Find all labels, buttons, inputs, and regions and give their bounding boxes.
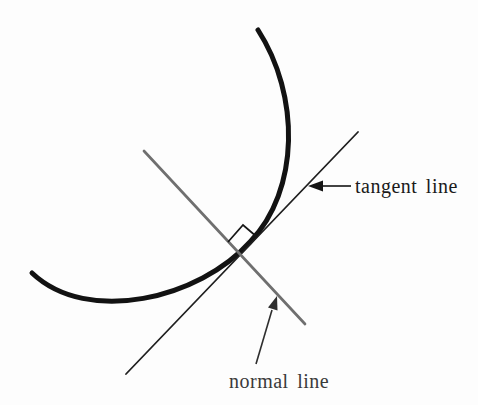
tangent-arrow	[308, 181, 351, 192]
normal-line	[144, 151, 305, 324]
normal-arrow-shaft	[256, 310, 272, 364]
curve	[32, 30, 289, 301]
diagram-figure: tangent line normal line	[0, 0, 478, 405]
normal-arrow	[256, 296, 278, 364]
tangent-line-label: tangent line	[355, 175, 458, 198]
diagram-canvas: tangent line normal line	[0, 0, 478, 405]
normal-line-label: normal line	[229, 370, 329, 392]
normal-arrowhead-icon	[268, 296, 278, 311]
